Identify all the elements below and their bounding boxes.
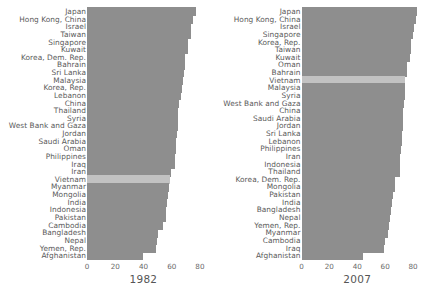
panel-title: 1982 [129,273,157,285]
bar-row [302,250,421,262]
x-axis-tick-label: 0 [85,262,90,271]
panel-title: 2007 [343,273,371,285]
chart-panel-2007: JapanHong Kong, ChinaIsraelSingaporeKore… [213,0,425,300]
bar [302,251,363,260]
x-axis-tick-label: 40 [353,262,362,271]
x-axis-tick-label: 0 [299,262,304,271]
x-axis-tick-label: 80 [408,262,417,271]
bar [87,251,143,260]
chart-root: JapanHong Kong, ChinaIsraelTaiwanSingapo… [0,0,425,300]
category-label: Afghanistan [0,250,86,262]
bar-row [87,250,207,262]
x-axis-tick-label: 20 [111,262,120,271]
plot-area-1982: JapanHong Kong, ChinaIsraelTaiwanSingapo… [0,0,213,300]
plot-area-2007: JapanHong Kong, ChinaIsraelSingaporeKore… [213,0,425,300]
category-label: Afghanistan [213,250,301,262]
x-axis-tick-label: 40 [139,262,148,271]
x-axis-tick-label: 60 [167,262,176,271]
x-axis-tick-label: 60 [381,262,390,271]
x-axis-tick-label: 80 [195,262,204,271]
x-axis-tick-label: 20 [325,262,334,271]
chart-panel-1982: JapanHong Kong, ChinaIsraelTaiwanSingapo… [0,0,213,300]
